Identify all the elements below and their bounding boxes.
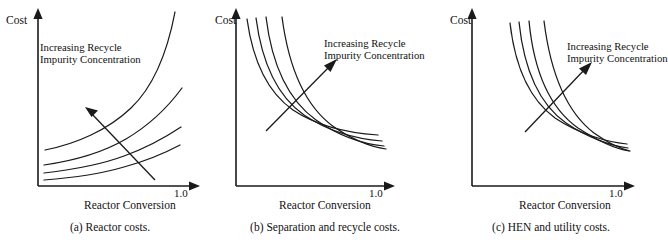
x-axis-tick-label: 1.0 (369, 187, 383, 199)
y-axis (33, 8, 42, 186)
y-axis-label: Cost (450, 14, 471, 27)
panel-b-plot (215, 0, 435, 215)
impurity-annotation-line1: Increasing Recycle (567, 40, 668, 52)
panel-a-plot (0, 0, 220, 215)
panel-separation-recycle-costs: Cost Increasing Recycle Impurity Concent… (215, 0, 435, 244)
y-axis-label: Cost (215, 14, 236, 27)
panel-hen-utility-costs: Cost Increasing Recycle Impurity Concent… (441, 0, 661, 244)
impurity-annotation: Increasing Recycle Impurity Concentratio… (324, 37, 425, 61)
y-axis-label: Cost (6, 14, 27, 27)
cost-curve-4 (45, 12, 175, 150)
x-axis-tick-label: 1.0 (609, 187, 623, 199)
impurity-annotation-line2: Impurity Concentration (567, 52, 668, 64)
panel-caption: (a) Reactor costs. (0, 221, 220, 233)
x-axis-label: Reactor Conversion (519, 199, 611, 212)
y-axis (231, 8, 240, 186)
panel-caption: (b) Separation and recycle costs. (215, 221, 435, 233)
impurity-annotation: Increasing Recycle Impurity Concentratio… (40, 41, 141, 65)
panel-reactor-costs: Cost Increasing Recycle Impurity Concent… (0, 0, 220, 244)
impurity-annotation-line2: Impurity Concentration (324, 49, 425, 61)
impurity-annotation-line1: Increasing Recycle (40, 41, 141, 53)
impurity-annotation-line2: Impurity Concentration (40, 53, 141, 65)
panel-c-plot (441, 0, 661, 215)
cost-curve-1 (44, 145, 180, 180)
impurity-annotation: Increasing Recycle Impurity Concentratio… (567, 40, 668, 64)
x-axis-tick-label: 1.0 (174, 187, 188, 199)
y-axis (467, 8, 476, 186)
x-axis-label: Reactor Conversion (84, 199, 176, 212)
panel-caption: (c) HEN and utility costs. (441, 221, 661, 233)
x-axis-label: Reactor Conversion (279, 199, 371, 212)
cost-curve-2 (44, 127, 181, 173)
impurity-annotation-line1: Increasing Recycle (324, 37, 425, 49)
